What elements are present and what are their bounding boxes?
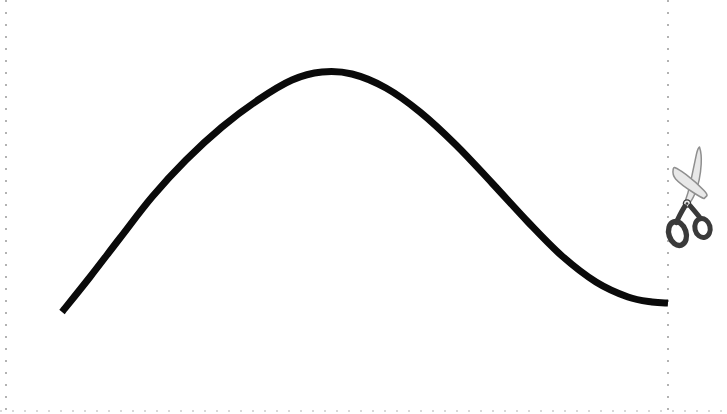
scissors-pivot-screw [686,202,689,205]
figure-canvas [0,0,727,414]
figure-background [0,0,727,414]
page-root: Cut-out coupon curve figure [0,0,727,414]
